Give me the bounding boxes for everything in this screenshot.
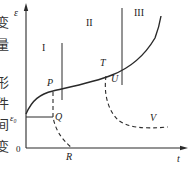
side-text-char: 变 xyxy=(0,16,9,29)
y-axis-arrow-icon xyxy=(24,3,28,11)
side-text-char: 变 xyxy=(0,140,9,153)
side-text-char: 间 xyxy=(0,118,9,131)
x-axis-arrow-icon xyxy=(180,146,188,150)
point-R-label: R xyxy=(65,151,72,162)
side-text-char: 形 xyxy=(0,76,9,89)
side-text-char: 件 xyxy=(0,97,9,110)
region-III-label: III xyxy=(134,7,144,18)
point-Q-label: Q xyxy=(55,111,63,122)
point-P-label: P xyxy=(46,77,53,88)
point-T-label: T xyxy=(100,57,107,68)
diagram-canvas: ε ε₀ 0 t I II III P Q T U V R xyxy=(0,0,194,170)
origin-label: 0 xyxy=(16,144,21,154)
side-text-char: 量 xyxy=(0,38,9,51)
y-axis-label: ε xyxy=(14,7,18,18)
x-axis-label: t xyxy=(177,153,180,164)
epsilon0-label: ε₀ xyxy=(10,113,17,123)
creep-curve xyxy=(26,16,161,114)
creep-curve-diagram: 变 量 形 件 间 变 ε ε₀ 0 t I II III P Q T U V xyxy=(0,0,194,170)
region-II-label: II xyxy=(86,17,93,28)
point-U-label: U xyxy=(111,73,119,84)
point-V-label: V xyxy=(150,112,158,123)
region-I-label: I xyxy=(42,42,45,53)
